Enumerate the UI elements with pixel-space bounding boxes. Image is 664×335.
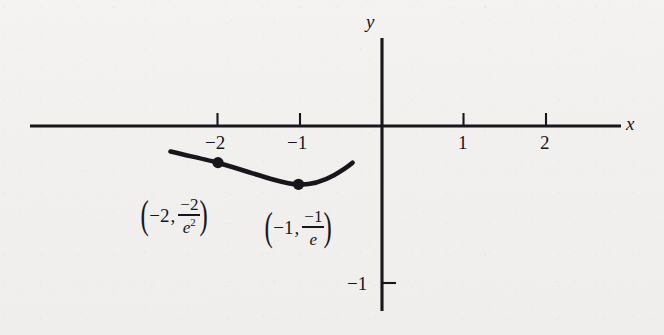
fraction-numerator: −1	[302, 208, 324, 226]
point-label-minus-one: ( −1 , −1 e )	[262, 208, 335, 247]
annotation-x-value-minus-two: −2	[148, 205, 170, 227]
data-point-minus-one	[293, 179, 304, 190]
left-paren-icon: (	[265, 211, 273, 244]
x-tick-label-minus-1: −1	[287, 133, 307, 152]
left-paren-icon: (	[141, 199, 149, 232]
graph-plot-area	[0, 0, 664, 335]
y-axis-label: y	[366, 12, 374, 31]
fraction-denominator: e	[308, 228, 320, 248]
x-tick-label-1: 1	[458, 133, 468, 152]
x-tick-label-2: 2	[540, 133, 550, 152]
denominator-base: e	[310, 229, 318, 248]
fraction-denominator: e2	[181, 216, 198, 236]
right-paren-icon: )	[200, 199, 208, 232]
denominator-exponent: 2	[190, 216, 196, 228]
figure-canvas: x y −2 −1 1 2 −1 ( −2 , −2 e2 ) ( −1 , −…	[0, 0, 664, 335]
point-label-minus-two: ( −2 , −2 e2 )	[138, 196, 211, 235]
x-axis-label: x	[626, 114, 634, 133]
function-curve	[171, 152, 353, 185]
annotation-comma: ,	[295, 217, 300, 239]
annotation-comma: ,	[171, 205, 176, 227]
right-paren-icon: )	[324, 211, 332, 244]
fraction-minus-two-over-e-squared: −2 e2	[178, 196, 200, 235]
fraction-minus-one-over-e: −1 e	[302, 208, 324, 247]
y-tick-label-minus-1: −1	[347, 274, 367, 293]
x-tick-label-minus-2: −2	[205, 133, 225, 152]
fraction-numerator: −2	[178, 196, 200, 214]
annotation-x-value-minus-one: −1	[272, 217, 294, 239]
data-point-minus-two	[212, 157, 223, 168]
